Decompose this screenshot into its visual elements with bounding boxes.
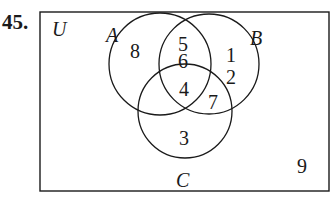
region-abc: 4 (179, 78, 189, 100)
region-c-only: 3 (179, 127, 189, 149)
set-a-label: A (104, 24, 119, 46)
region-b-only-top: 1 (226, 44, 236, 66)
region-ab-only-bottom: 6 (178, 50, 188, 72)
universe-label: U (52, 18, 68, 40)
set-c-label: C (176, 169, 190, 191)
venn-diagram: U A B C 8 5 6 1 2 4 7 3 9 (0, 0, 333, 198)
region-bc-only: 7 (208, 91, 218, 113)
region-outside: 9 (297, 155, 307, 177)
set-a-circle (109, 13, 211, 115)
set-b-label: B (250, 27, 262, 49)
region-b-only-bottom: 2 (226, 66, 236, 88)
region-a-only: 8 (130, 40, 140, 62)
